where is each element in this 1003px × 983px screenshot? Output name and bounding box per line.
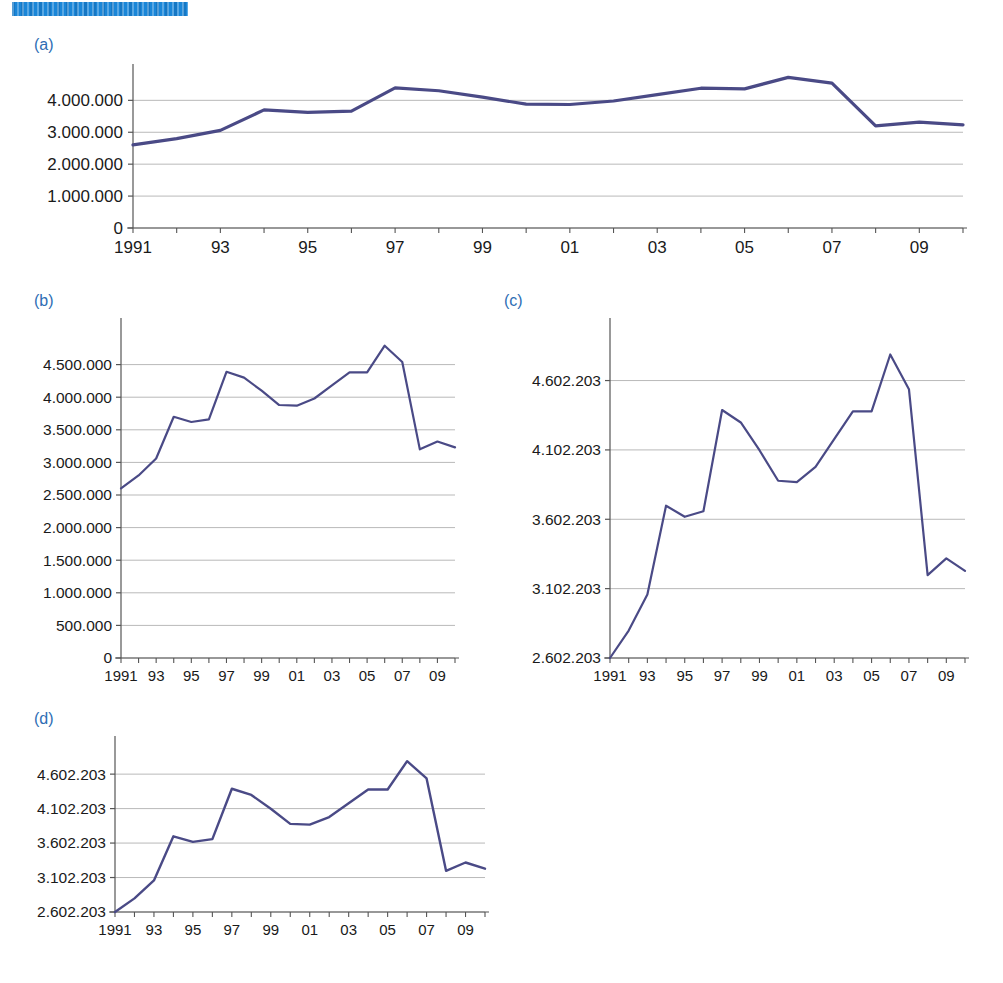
x-axis-tick-label: 05 (735, 238, 754, 257)
x-axis-tick-label: 05 (863, 667, 880, 684)
x-axis-tick-label: 01 (788, 667, 805, 684)
x-axis-tick-label: 95 (298, 238, 317, 257)
y-axis-tick-label: 2.500.000 (43, 486, 112, 503)
x-axis-tick-label: 07 (822, 238, 841, 257)
x-axis-tick-label: 95 (185, 921, 202, 938)
y-axis-tick-label: 3.500.000 (43, 421, 112, 438)
x-axis-tick-label: 99 (751, 667, 768, 684)
x-axis-tick-label: 97 (218, 667, 235, 684)
x-axis-tick-label: 93 (146, 921, 163, 938)
y-axis-tick-label: 3.102.203 (532, 580, 601, 597)
y-axis-tick-label: 4.500.000 (43, 356, 112, 373)
y-axis-tick-label: 3.602.203 (532, 511, 601, 528)
x-axis-tick-label: 03 (324, 667, 341, 684)
chart-b-svg: 0500.0001.000.0001.500.0002.000.0002.500… (0, 318, 490, 698)
y-axis-tick-label: 500.000 (56, 617, 112, 634)
x-axis-tick-label: 95 (676, 667, 693, 684)
y-axis-tick-label: 4.000.000 (47, 91, 123, 110)
x-axis-tick-label: 09 (457, 921, 474, 938)
chart-d: 2.602.2033.102.2033.602.2034.102.2034.60… (0, 736, 520, 951)
chart-d-svg: 2.602.2033.102.2033.602.2034.102.2034.60… (0, 736, 520, 951)
panel-d-label: (d) (34, 710, 54, 727)
x-axis-tick-label: 03 (826, 667, 843, 684)
y-axis-tick-label: 0 (103, 649, 112, 666)
x-axis-tick-label: 97 (223, 921, 240, 938)
panel-a: (a) (34, 36, 54, 54)
y-axis-tick-label: 3.602.203 (37, 834, 106, 851)
y-axis-tick-label: 2.602.203 (532, 649, 601, 666)
x-axis-tick-label: 07 (901, 667, 918, 684)
y-axis-tick-label: 4.602.203 (532, 372, 601, 389)
x-axis-tick-label: 1991 (104, 667, 137, 684)
y-axis-tick-label: 0 (114, 219, 123, 238)
y-axis-tick-label: 4.102.203 (37, 800, 106, 817)
chart-b: 0500.0001.000.0001.500.0002.000.0002.500… (0, 318, 490, 698)
y-axis-tick-label: 2.000.000 (47, 155, 123, 174)
x-axis-tick-label: 09 (938, 667, 955, 684)
x-axis-tick-label: 97 (714, 667, 731, 684)
y-axis-tick-label: 1.500.000 (43, 552, 112, 569)
x-axis-tick-label: 99 (262, 921, 279, 938)
x-axis-tick-label: 1991 (114, 238, 152, 257)
chart-a-svg: 01.000.0002.000.0003.000.0004.000.000199… (0, 60, 1003, 275)
x-axis-tick-label: 09 (429, 667, 446, 684)
x-axis-tick-label: 07 (418, 921, 435, 938)
x-axis-tick-label: 01 (560, 238, 579, 257)
y-axis-tick-label: 2.000.000 (43, 519, 112, 536)
x-axis-tick-label: 95 (183, 667, 200, 684)
y-axis-tick-label: 1.000.000 (43, 584, 112, 601)
x-axis-tick-label: 93 (639, 667, 656, 684)
chart-c-svg: 2.602.2033.102.2033.602.2034.102.2034.60… (500, 318, 1003, 698)
x-axis-tick-label: 97 (386, 238, 405, 257)
x-axis-tick-label: 93 (211, 238, 230, 257)
panel-a-label: (a) (34, 36, 54, 53)
y-axis-tick-label: 4.000.000 (43, 389, 112, 406)
data-series-line (610, 355, 965, 658)
x-axis-tick-label: 1991 (593, 667, 626, 684)
x-axis-tick-label: 05 (359, 667, 376, 684)
x-axis-tick-label: 93 (148, 667, 165, 684)
panel-c: (c) (504, 292, 523, 310)
y-axis-tick-label: 2.602.203 (37, 903, 106, 920)
y-axis-tick-label: 3.000.000 (47, 123, 123, 142)
x-axis-tick-label: 05 (379, 921, 396, 938)
chart-a: 01.000.0002.000.0003.000.0004.000.000199… (0, 60, 1003, 275)
panel-c-label: (c) (504, 292, 523, 309)
x-axis-tick-label: 99 (473, 238, 492, 257)
redacted-title-banner (12, 2, 188, 16)
panel-d: (d) (34, 710, 54, 728)
x-axis-tick-label: 99 (253, 667, 270, 684)
x-axis-tick-label: 07 (394, 667, 411, 684)
x-axis-tick-label: 01 (301, 921, 318, 938)
x-axis-tick-label: 09 (910, 238, 929, 257)
data-series-line (121, 346, 455, 489)
panel-b: (b) (34, 292, 54, 310)
x-axis-tick-label: 03 (648, 238, 667, 257)
chart-c: 2.602.2033.102.2033.602.2034.102.2034.60… (500, 318, 1003, 698)
y-axis-tick-label: 4.602.203 (37, 766, 106, 783)
y-axis-tick-label: 4.102.203 (532, 441, 601, 458)
data-series-line (115, 761, 485, 912)
y-axis-tick-label: 1.000.000 (47, 187, 123, 206)
x-axis-tick-label: 1991 (98, 921, 131, 938)
x-axis-tick-label: 03 (340, 921, 357, 938)
y-axis-tick-label: 3.102.203 (37, 869, 106, 886)
x-axis-tick-label: 01 (288, 667, 305, 684)
y-axis-tick-label: 3.000.000 (43, 454, 112, 471)
panel-b-label: (b) (34, 292, 54, 309)
data-series-line (133, 77, 963, 145)
